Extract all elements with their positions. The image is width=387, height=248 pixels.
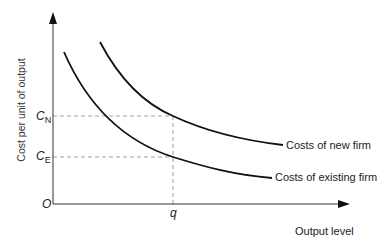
existing-firm-label: Costs of existing firm — [275, 171, 377, 183]
ce-main: C — [36, 149, 45, 163]
new-firm-cost-curve — [100, 42, 283, 145]
cn-tick-label: CN — [36, 109, 51, 123]
existing-firm-cost-curve — [64, 52, 272, 178]
ce-tick-label: CE — [36, 149, 51, 163]
y-axis-label: Cost per unit of output — [15, 58, 27, 161]
x-axis-label: Output level — [295, 225, 354, 237]
ce-subscript: E — [45, 155, 51, 165]
x-axis-arrow-icon — [338, 200, 350, 208]
new-firm-label: Costs of new firm — [286, 139, 371, 151]
cost-diagram — [0, 0, 387, 248]
cn-subscript: N — [45, 115, 52, 125]
cn-main: C — [36, 109, 45, 123]
q-tick-label: q — [170, 206, 177, 220]
y-axis-arrow-icon — [49, 12, 57, 24]
origin-label: O — [42, 197, 51, 211]
